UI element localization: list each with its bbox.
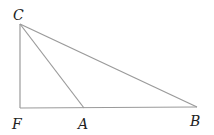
label-C: C	[13, 7, 24, 23]
segment-FB	[20, 107, 197, 108]
geometry-diagram: C F A B	[0, 0, 214, 135]
segment-CB	[20, 24, 197, 107]
label-F: F	[11, 116, 23, 132]
label-B: B	[189, 113, 200, 129]
label-A: A	[76, 116, 88, 132]
segment-CA	[20, 24, 84, 108]
